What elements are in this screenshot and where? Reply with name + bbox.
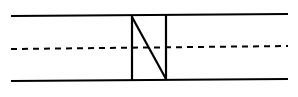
baseline	[11, 79, 288, 81]
top-guide-line	[11, 14, 288, 16]
handwriting-lines-diagram	[0, 0, 298, 97]
